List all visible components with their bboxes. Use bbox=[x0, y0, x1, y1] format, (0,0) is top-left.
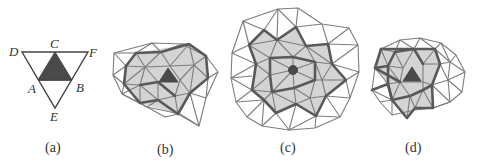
panel-c-mesh bbox=[231, 8, 359, 130]
caption-d: (d) bbox=[405, 141, 421, 155]
caption-a: (a) bbox=[45, 141, 61, 155]
figure-canvas bbox=[0, 0, 477, 161]
vertex-label-a: A bbox=[28, 82, 36, 95]
vertex-label-d: D bbox=[9, 45, 18, 58]
vertex-label-b: B bbox=[76, 81, 84, 94]
vertex-label-c: C bbox=[50, 37, 59, 50]
caption-b: (b) bbox=[157, 143, 173, 157]
vertex-label-f: F bbox=[89, 46, 97, 59]
center-triangle-acb bbox=[38, 52, 72, 80]
panel-b-mesh bbox=[113, 43, 218, 126]
center-vertex-c bbox=[289, 66, 298, 75]
caption-c: (c) bbox=[280, 141, 296, 155]
vertex-label-e: E bbox=[50, 110, 58, 123]
panel-d-mesh bbox=[372, 38, 465, 118]
